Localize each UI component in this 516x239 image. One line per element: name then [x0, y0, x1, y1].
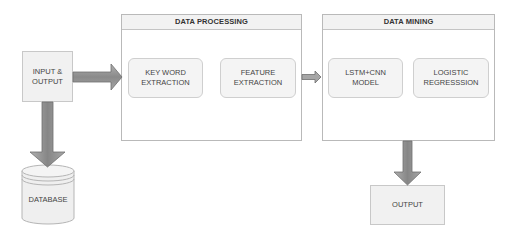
logistic-regression-box: LOGISTIC REGRESSSION — [413, 58, 489, 98]
input-output-label: INPUT & OUTPUT — [32, 67, 63, 87]
feature-extraction-box: FEATURE EXTRACTION — [220, 58, 296, 98]
lstm-cnn-model-box: LSTM+CNN MODEL — [328, 58, 403, 98]
input-output-box: INPUT & OUTPUT — [22, 51, 73, 102]
arrow-down-output-icon — [393, 141, 423, 187]
keyword-extraction-label: KEY WORD EXTRACTION — [141, 68, 189, 88]
arrow-down-icon — [28, 102, 68, 168]
data-processing-title: DATA PROCESSING — [122, 15, 301, 30]
logistic-regression-label: LOGISTIC REGRESSSION — [423, 68, 478, 88]
output-label: OUTPUT — [392, 200, 423, 210]
database-label: DATABASE — [22, 185, 74, 215]
arrow-right-icon — [73, 63, 123, 91]
output-box: OUTPUT — [370, 185, 445, 225]
keyword-extraction-box: KEY WORD EXTRACTION — [128, 58, 203, 98]
lstm-cnn-model-label: LSTM+CNN MODEL — [345, 68, 386, 88]
feature-extraction-label: FEATURE EXTRACTION — [234, 68, 282, 88]
data-mining-title: DATA MINING — [323, 15, 494, 30]
arrow-small-right-icon — [302, 70, 322, 84]
